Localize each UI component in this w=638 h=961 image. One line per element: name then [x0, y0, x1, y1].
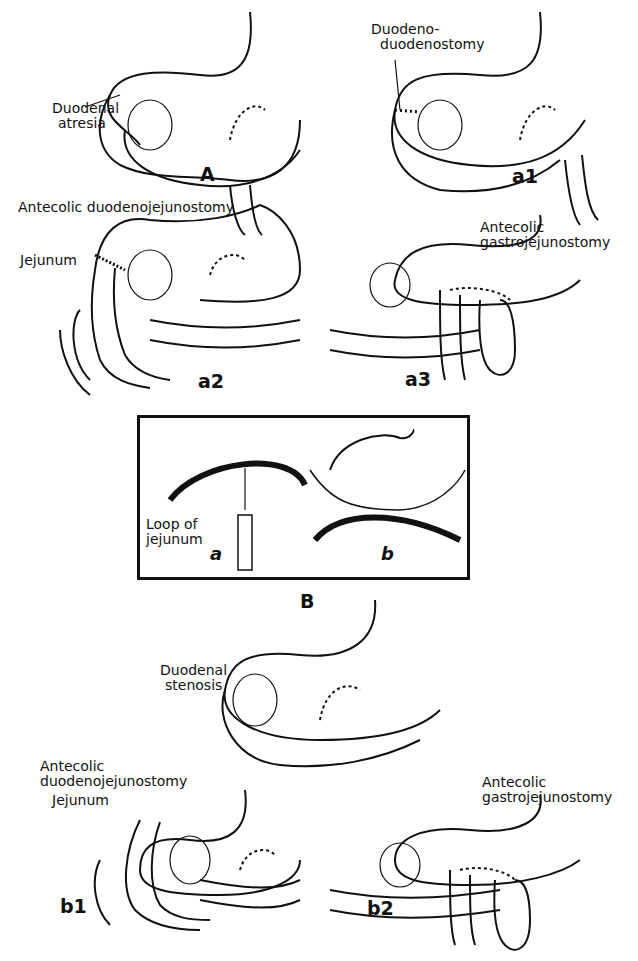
label-duodeno-1: Duodeno-: [371, 22, 439, 37]
panel-a2-drawing: [60, 205, 300, 395]
panel-letter-A: A: [200, 163, 215, 185]
label-loop-of: Loop of: [146, 517, 198, 532]
label-jejunum-b1: Jejunum: [52, 793, 109, 808]
panel-stenosis-drawing: [222, 600, 440, 766]
label-antecolic-b1-2: duodenojejunostomy: [40, 774, 187, 789]
label-antecolic-a3-2: gastrojejunostomy: [480, 235, 610, 250]
panel-letter-b1: b1: [60, 895, 87, 917]
label-antecolic-duodenojejunostomy: Antecolic duodenojejunostomy: [18, 200, 234, 215]
label-duodenal-stenosis-2: stenosis: [165, 678, 222, 693]
panel-letter-a1: a1: [512, 165, 538, 187]
label-antecolic-b1-1: Antecolic: [40, 759, 104, 774]
label-antecolic-a3-1: Antecolic: [480, 220, 544, 235]
panel-b1-drawing: [95, 790, 300, 930]
label-jejunum-loop: jejunum: [146, 532, 203, 547]
inset-letter-b: b: [381, 543, 394, 564]
label-antecolic-b2-1: Antecolic: [482, 775, 546, 790]
label-duodenal-stenosis-1: Duodenal: [160, 663, 227, 678]
label-duodenal-atresia-2: atresia: [58, 116, 106, 131]
label-duodenal-atresia-1: Duodenal: [52, 101, 119, 116]
inset-letter-a: a: [210, 543, 222, 564]
panel-letter-b2: b2: [367, 897, 394, 919]
panel-b2-drawing: [330, 795, 580, 950]
inset-frame-B: [137, 415, 470, 580]
panel-letter-a2: a2: [198, 370, 224, 392]
label-duodeno-2: duodenostomy: [380, 37, 485, 52]
panel-letter-B: B: [300, 590, 314, 612]
label-jejunum: Jejunum: [20, 253, 77, 268]
label-antecolic-b2-2: gastrojejunostomy: [482, 790, 612, 805]
panel-letter-a3: a3: [405, 368, 431, 390]
